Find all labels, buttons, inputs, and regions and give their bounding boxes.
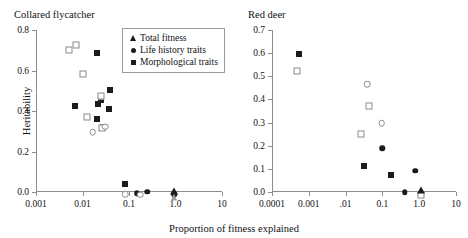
x-tick [129,192,130,196]
y-tick-label: 0.6 [253,48,265,58]
x-tick-label: 0.001 [25,199,46,209]
data-point [102,123,109,130]
panel-collared-flycatcher: Collared flycatcher Heritability 0.00.20… [0,0,238,238]
data-point [379,146,385,152]
data-point [122,181,128,187]
data-point [296,51,302,57]
x-tick-label: 10 [451,199,461,209]
axis-title-x: Proportion of fitness explained [0,223,468,234]
filled-circle-icon [128,48,138,53]
x-tick-label: 0.1 [123,199,135,209]
y-tick-label: 0.0 [17,187,29,197]
legend: Total fitness Life history traits Morpho… [122,28,225,73]
figure: Collared flycatcher Heritability 0.00.20… [0,0,468,238]
y-tick-label: 0.2 [253,141,265,151]
x-tick [456,192,457,196]
data-point [417,186,425,193]
data-point [94,116,100,122]
data-point [80,70,87,77]
y-tick [268,53,272,54]
panel-title-right: Red deer [248,9,286,20]
data-point [412,168,418,174]
y-tick [32,30,36,31]
data-point [388,172,394,178]
data-point [137,192,144,199]
x-tick [309,192,310,196]
legend-item-total-fitness: Total fitness [128,32,218,44]
x-tick-label: 0.01 [74,199,91,209]
y-tick [32,152,36,153]
data-point [106,106,112,112]
data-point [294,68,301,75]
x-tick-label: .01 [340,199,352,209]
x-tick [272,192,273,196]
y-tick [268,99,272,100]
filled-square-icon [128,60,138,65]
x-tick-label: 10 [217,199,227,209]
y-tick [268,76,272,77]
y-tick-label: 0.4 [253,94,265,104]
data-point [97,92,104,99]
legend-label: Morphological traits [140,56,218,68]
x-tick-label: 0.001 [298,199,319,209]
panel-title-left: Collared flycatcher [14,9,95,20]
y-tick [268,169,272,170]
data-point [144,189,150,195]
data-point [364,81,371,88]
data-point [361,163,367,169]
data-point [89,129,96,136]
y-tick-label: 0.6 [17,66,29,76]
legend-item-life-history-traits: Life history traits [128,44,218,56]
data-point [72,103,78,109]
data-point [402,189,408,195]
data-point [72,42,79,49]
y-tick-label: 0.0 [253,187,265,197]
x-tick [36,192,37,196]
y-tick [32,71,36,72]
y-axis-line-left [36,30,37,192]
y-tick [32,111,36,112]
data-point [378,120,385,127]
x-tick [346,192,347,196]
filled-triangle-icon [128,35,138,41]
x-tick [382,192,383,196]
y-tick-label: 0.3 [253,118,265,128]
y-tick-label: 0.2 [17,147,29,157]
y-tick [268,30,272,31]
x-tick [222,192,223,196]
y-tick-label: 0.8 [17,25,29,35]
plot-area-right: 0.00.10.20.30.40.50.60.70.00010.001.010.… [272,30,456,192]
data-point [84,114,91,121]
legend-item-morphological-traits: Morphological traits [128,56,218,68]
x-axis-line-right [272,191,456,192]
x-tick-label: 1.0 [413,199,425,209]
x-tick [83,192,84,196]
data-point [94,50,100,56]
data-point [107,87,113,93]
y-tick-label: 0.4 [17,106,29,116]
x-tick-label: 0.1 [376,199,388,209]
legend-label: Life history traits [140,44,206,56]
data-point [171,194,177,201]
data-point [357,131,364,138]
data-point [365,102,372,109]
legend-label: Total fitness [140,32,187,44]
data-point [122,191,129,198]
y-axis-line-right [272,30,273,192]
x-tick-label: 0.0001 [259,199,285,209]
y-tick [268,146,272,147]
y-tick-label: 0.1 [253,164,265,174]
y-tick-label: 0.7 [253,25,265,35]
y-tick [268,123,272,124]
y-tick-label: 0.5 [253,71,265,81]
